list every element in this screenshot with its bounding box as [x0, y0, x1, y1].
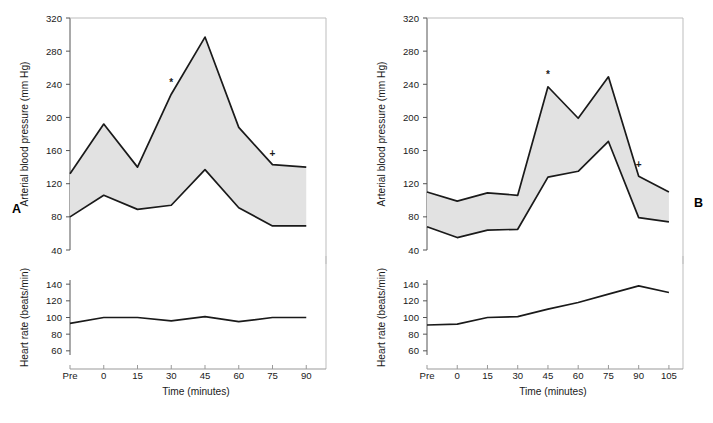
bp-y-tick-label: 200: [403, 112, 419, 123]
hr-y-tick-label: 80: [51, 329, 62, 340]
x-tick-label: 75: [267, 370, 278, 381]
hr-y-tick-label: 120: [46, 295, 62, 306]
x-tick-label: 45: [200, 370, 211, 381]
x-tick-label: Pre: [63, 370, 78, 381]
bp-y-tick-label: 320: [46, 13, 62, 24]
panel-a: 4080120160200240280320*+Arterial blood p…: [0, 0, 356, 423]
hr-y-tick-label: 140: [403, 279, 419, 290]
hr-subplot: 6080100120140: [46, 256, 326, 369]
bp-y-tick-label: 160: [46, 145, 62, 156]
x-tick-label: 30: [166, 370, 177, 381]
x-tick-label: 0: [455, 370, 460, 381]
x-tick-label: 0: [101, 370, 106, 381]
x-tick-label: 60: [573, 370, 584, 381]
hr-subplot: 6080100120140: [403, 256, 683, 369]
hr-y-tick-label: 100: [46, 312, 62, 323]
bp-y-tick-label: 240: [46, 79, 62, 90]
x-tick-label: 90: [301, 370, 312, 381]
hr-y-tick-label: 140: [46, 279, 62, 290]
x-axis-title: Time (minutes): [519, 386, 587, 397]
asterisk-marker: *: [169, 77, 173, 88]
asterisk-marker: *: [546, 69, 550, 80]
bp-y-tick-label: 40: [408, 245, 419, 256]
panel-b-svg: 4080120160200240280320*+Arterial blood p…: [357, 0, 713, 423]
bp-y-tick-label: 120: [403, 178, 419, 189]
heart-rate-line: [427, 286, 669, 325]
x-tick-label: 90: [633, 370, 644, 381]
x-tick-label: 45: [543, 370, 554, 381]
x-tick-label: 75: [603, 370, 614, 381]
x-tick-label: 105: [661, 370, 677, 381]
hr-y-axis-title: Heart rate (beats/min): [376, 268, 387, 367]
hr-y-tick-label: 80: [408, 329, 419, 340]
hr-y-tick-label: 100: [403, 312, 419, 323]
bp-y-axis-title: Arterial blood pressure (mm Hg): [19, 62, 30, 207]
x-tick-label: Pre: [420, 370, 435, 381]
panel-letter-b: B: [694, 196, 703, 210]
bp-subplot: 4080120160200240280320*+: [403, 13, 683, 265]
panel-letter-a: A: [12, 202, 21, 216]
bp-y-tick-label: 160: [403, 145, 419, 156]
bp-y-tick-label: 200: [46, 112, 62, 123]
bp-y-tick-label: 80: [408, 211, 419, 222]
hr-y-axis-title: Heart rate (beats/min): [19, 268, 30, 367]
x-axis: Pre0153045607590105Time (minutes): [420, 365, 683, 397]
plus-marker: +: [270, 148, 276, 159]
bp-y-tick-label: 280: [46, 46, 62, 57]
hr-y-tick-label: 60: [408, 345, 419, 356]
bp-y-tick-label: 40: [51, 245, 62, 256]
panel-b: 4080120160200240280320*+Arterial blood p…: [357, 0, 713, 423]
bp-y-tick-label: 240: [403, 79, 419, 90]
plus-marker: +: [636, 159, 642, 170]
x-tick-label: 60: [233, 370, 244, 381]
bp-y-tick-label: 120: [46, 178, 62, 189]
x-tick-label: 30: [512, 370, 523, 381]
hr-y-tick-label: 60: [51, 345, 62, 356]
x-axis-title: Time (minutes): [162, 386, 230, 397]
heart-rate-line: [70, 317, 306, 324]
bp-subplot: 4080120160200240280320*+: [46, 13, 326, 265]
x-axis: Pre0153045607590Time (minutes): [63, 365, 326, 397]
panel-a-svg: 4080120160200240280320*+Arterial blood p…: [0, 0, 356, 423]
bp-y-tick-label: 80: [51, 211, 62, 222]
hr-y-tick-label: 120: [403, 295, 419, 306]
x-tick-label: 15: [132, 370, 143, 381]
x-tick-label: 15: [482, 370, 493, 381]
bp-y-tick-label: 320: [403, 13, 419, 24]
figure-container: 4080120160200240280320*+Arterial blood p…: [0, 0, 713, 423]
bp-y-axis-title: Arterial blood pressure (mm Hg): [376, 62, 387, 207]
bp-y-tick-label: 280: [403, 46, 419, 57]
